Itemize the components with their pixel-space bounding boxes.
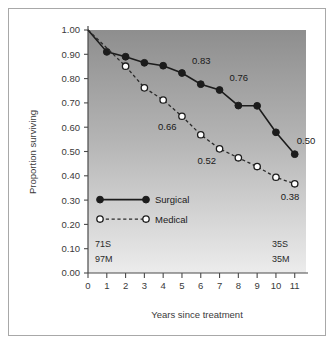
chart-canvas: 0.000.100.200.300.400.500.600.700.800.90… (0, 0, 334, 344)
point-value-label: 0.52 (198, 155, 217, 166)
at-risk-count: 97M (95, 254, 113, 264)
data-point-medical (179, 113, 185, 119)
point-value-label: 0.50 (297, 135, 316, 146)
data-point-medical (216, 146, 222, 152)
data-point-medical (160, 97, 166, 103)
data-point-surgical (122, 53, 129, 60)
x-tick-label: 0 (85, 280, 90, 291)
data-point-medical (292, 181, 298, 187)
y-tick-label: 0.50 (62, 146, 81, 157)
legend-marker-surgical (97, 196, 104, 203)
data-point-surgical (103, 48, 110, 55)
data-point-surgical (235, 102, 242, 109)
x-tick-label: 2 (123, 280, 128, 291)
data-point-medical (235, 155, 241, 161)
x-axis: 01234567891011 (85, 273, 308, 291)
point-value-label: 0.66 (158, 121, 177, 132)
data-point-medical (273, 174, 279, 180)
y-tick-label: 0.60 (62, 122, 81, 133)
data-point-surgical (179, 70, 186, 77)
x-tick-label: 9 (254, 280, 259, 291)
x-tick-label: 4 (161, 280, 166, 291)
x-tick-label: 10 (271, 280, 282, 291)
data-point-medical (141, 85, 147, 91)
point-value-label: 0.83 (192, 55, 211, 66)
x-tick-label: 3 (142, 280, 147, 291)
at-risk-count: 71S (95, 239, 111, 249)
data-point-surgical (160, 62, 167, 69)
data-point-surgical (197, 81, 204, 88)
data-point-surgical (216, 87, 223, 94)
at-risk-count: 35M (272, 254, 290, 264)
legend-marker-surgical (143, 196, 150, 203)
y-axis: 0.000.100.200.300.400.500.600.700.800.90… (62, 24, 89, 278)
data-point-medical (254, 163, 260, 169)
legend-marker-medical (97, 216, 103, 222)
y-tick-label: 0.30 (62, 195, 81, 206)
data-point-medical (122, 63, 128, 69)
x-tick-label: 6 (198, 280, 203, 291)
data-point-surgical (254, 102, 261, 109)
at-risk-count: 35S (272, 239, 288, 249)
x-tick-label: 7 (217, 280, 222, 291)
y-tick-label: 0.00 (62, 267, 81, 278)
y-tick-label: 1.00 (62, 24, 81, 35)
y-tick-label: 0.10 (62, 243, 81, 254)
plot-background (88, 30, 306, 273)
x-tick-label: 11 (290, 280, 300, 291)
x-tick-label: 1 (104, 280, 109, 291)
x-tick-label: 5 (179, 280, 184, 291)
x-tick-label: 8 (236, 280, 241, 291)
point-value-label: 0.38 (281, 191, 300, 202)
legend-label-medical[interactable]: Medical (155, 214, 188, 225)
y-tick-label: 0.40 (62, 170, 81, 181)
survival-chart-figure: 0.000.100.200.300.400.500.600.700.800.90… (0, 0, 334, 344)
legend-marker-medical (143, 216, 149, 222)
data-point-surgical (291, 151, 298, 158)
y-tick-label: 0.90 (62, 49, 81, 60)
legend-label-surgical[interactable]: Surgical (155, 194, 189, 205)
y-tick-label: 0.80 (62, 73, 81, 84)
x-axis-title: Years since treatment (151, 309, 243, 320)
y-tick-label: 0.20 (62, 219, 81, 230)
y-tick-label: 0.70 (62, 97, 81, 108)
data-point-surgical (141, 59, 148, 66)
point-value-label: 0.76 (230, 72, 249, 83)
data-point-medical (198, 132, 204, 138)
data-point-surgical (273, 129, 280, 136)
y-axis-title: Proportion surviving (27, 110, 38, 194)
